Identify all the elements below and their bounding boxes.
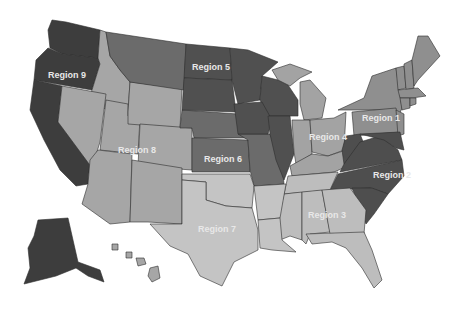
region-9-label: Region 9	[48, 70, 86, 80]
state-rhode-island[interactable]	[410, 98, 416, 106]
state-wyoming[interactable]	[128, 82, 182, 128]
us-region-map: Region 9 Region 8 Region 5 Region 6 Regi…	[0, 0, 459, 309]
state-south-dakota[interactable]	[182, 78, 236, 112]
region-4-label: Region 4	[309, 132, 347, 142]
region-1-label: Region 1	[362, 113, 400, 123]
region-2-label: Region 2	[373, 170, 411, 180]
state-alaska[interactable]	[24, 218, 104, 284]
region-7-label: Region 7	[198, 224, 236, 234]
state-hawaii-kauai[interactable]	[112, 244, 118, 250]
region-8-label: Region 8	[118, 145, 156, 155]
state-maine[interactable]	[412, 36, 440, 86]
state-hawaii-oahu[interactable]	[126, 252, 132, 258]
region-5-label: Region 5	[192, 62, 230, 72]
state-hawaii-big[interactable]	[148, 266, 160, 282]
state-hawaii-maui[interactable]	[136, 258, 146, 266]
state-massachusetts[interactable]	[398, 88, 426, 98]
region-6-label: Region 6	[204, 154, 242, 164]
state-connecticut[interactable]	[400, 98, 410, 110]
state-florida[interactable]	[306, 232, 382, 288]
state-new-mexico[interactable]	[130, 160, 182, 224]
state-michigan-lower[interactable]	[300, 80, 326, 120]
region-3-label: Region 3	[308, 210, 346, 220]
